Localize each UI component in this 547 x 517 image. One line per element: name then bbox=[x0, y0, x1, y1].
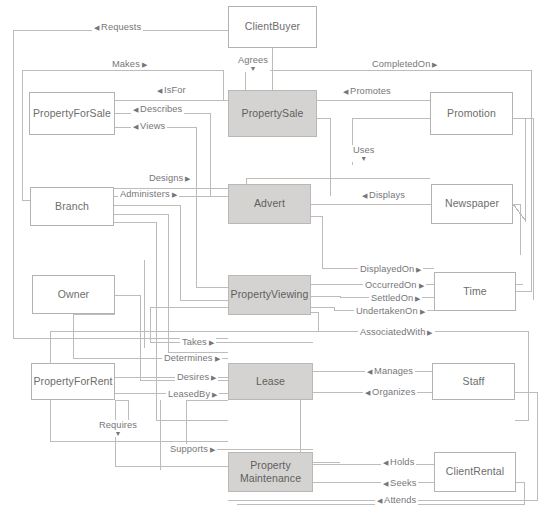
arrow-right-icon: ▶ bbox=[142, 61, 147, 68]
relationship-administers: Administers▶ bbox=[118, 189, 179, 200]
entity-lease[interactable]: Lease bbox=[228, 363, 313, 400]
arrow-left-icon: ◀ bbox=[383, 459, 388, 466]
entity-property-for-sale[interactable]: PropertyForSale bbox=[29, 92, 115, 135]
arrow-left-icon: ◀ bbox=[383, 480, 388, 487]
er-diagram-canvas: ClientBuyer PropertyForSale PropertySale… bbox=[0, 0, 547, 517]
relationship-label: Supports bbox=[170, 444, 208, 454]
relationship-promotes: ◀Promotes bbox=[341, 86, 393, 97]
arrow-down-icon: ▼ bbox=[99, 431, 137, 437]
relationship-label: Administers bbox=[120, 189, 170, 199]
arrow-left-icon: ◀ bbox=[94, 24, 99, 31]
relationship-label: Takes bbox=[182, 337, 207, 347]
relationship-associated-with: AssociatedWith▶ bbox=[358, 327, 435, 338]
entity-label: Staff bbox=[463, 375, 485, 388]
relationship-label: DisplayedOn bbox=[360, 264, 414, 274]
relationship-label: Describes bbox=[140, 104, 182, 114]
arrow-left-icon: ◀ bbox=[365, 389, 370, 396]
arrow-right-icon: ▶ bbox=[210, 446, 215, 453]
relationship-holds: ◀Holds bbox=[381, 457, 416, 468]
relationship-label: Organizes bbox=[372, 387, 415, 397]
relationship-label: UndertakenOn bbox=[356, 306, 418, 316]
arrow-right-icon: ▶ bbox=[209, 339, 214, 346]
relationship-label: Views bbox=[140, 121, 165, 131]
entity-label: PropertySale bbox=[242, 107, 304, 120]
entity-client-rental[interactable]: ClientRental bbox=[434, 452, 516, 492]
relationship-label: CompletedOn bbox=[372, 59, 430, 69]
relationship-occurred-on: OccurredOn▶ bbox=[363, 280, 426, 291]
relationship-label: Holds bbox=[390, 457, 414, 467]
entity-label: PropertyForRent bbox=[33, 375, 112, 388]
entity-client-buyer[interactable]: ClientBuyer bbox=[228, 6, 317, 48]
relationship-desires: Desires▶ bbox=[175, 372, 218, 383]
relationship-describes: ◀Describes bbox=[131, 104, 184, 115]
relationship-label: Determines bbox=[164, 353, 213, 363]
entity-newspaper[interactable]: Newspaper bbox=[431, 184, 513, 224]
relationship-label: LeasedBy bbox=[168, 389, 210, 399]
arrow-right-icon: ▶ bbox=[185, 175, 190, 182]
relationship-manages: ◀Manages bbox=[365, 366, 415, 377]
arrow-left-icon: ◀ bbox=[157, 87, 162, 94]
relationship-label: AssociatedWith bbox=[360, 327, 425, 337]
arrow-down-icon: ▼ bbox=[353, 156, 375, 162]
arrow-right-icon: ▶ bbox=[432, 61, 437, 68]
relationship-label: Promotes bbox=[350, 86, 391, 96]
entity-label: Owner bbox=[58, 288, 89, 301]
arrow-left-icon: ◀ bbox=[343, 88, 348, 95]
entity-label: ClientRental bbox=[446, 465, 504, 478]
entity-label: Property Maintenance bbox=[240, 459, 301, 485]
entity-label: Promotion bbox=[447, 107, 496, 120]
entity-label: PropertyViewing bbox=[231, 288, 309, 301]
entity-label: ClientBuyer bbox=[245, 20, 300, 33]
relationship-label: OccurredOn bbox=[365, 280, 417, 290]
relationship-is-for: ◀IsFor bbox=[155, 85, 188, 96]
relationship-settled-on: SettledOn▶ bbox=[369, 293, 422, 304]
entity-promotion[interactable]: Promotion bbox=[430, 92, 513, 135]
entity-branch[interactable]: Branch bbox=[30, 187, 114, 226]
entity-property-maintenance[interactable]: Property Maintenance bbox=[228, 452, 313, 492]
relationship-determines: Determines▶ bbox=[162, 353, 222, 364]
relationship-completed-on: CompletedOn▶ bbox=[370, 59, 440, 70]
entity-label: Lease bbox=[256, 375, 285, 388]
arrow-right-icon: ▶ bbox=[416, 266, 421, 273]
relationship-label: Designs bbox=[149, 173, 183, 183]
relationship-label: SettledOn bbox=[371, 293, 413, 303]
relationship-requests: ◀Requests bbox=[92, 22, 143, 33]
entity-advert[interactable]: Advert bbox=[228, 184, 311, 224]
relationship-label: Requires bbox=[99, 420, 137, 430]
relationship-label: Attends bbox=[384, 495, 416, 505]
entity-property-viewing[interactable]: PropertyViewing bbox=[228, 275, 311, 315]
arrow-right-icon: ▶ bbox=[212, 391, 217, 398]
arrow-down-icon: ▼ bbox=[238, 66, 268, 72]
entity-owner[interactable]: Owner bbox=[32, 275, 115, 314]
relationship-requires: Requires▼ bbox=[97, 420, 139, 437]
relationship-uses: Uses▼ bbox=[351, 145, 377, 162]
connector-lines bbox=[0, 0, 547, 517]
relationship-label: Displays bbox=[369, 190, 405, 200]
arrow-left-icon: ◀ bbox=[362, 192, 367, 199]
arrow-right-icon: ▶ bbox=[427, 329, 432, 336]
relationship-agrees: Agrees▼ bbox=[236, 55, 270, 72]
relationship-undertaken-on: UndertakenOn▶ bbox=[354, 306, 427, 317]
entity-property-sale[interactable]: PropertySale bbox=[228, 90, 317, 137]
relationship-leased-by: LeasedBy▶ bbox=[166, 389, 219, 400]
entity-label: Advert bbox=[254, 197, 285, 210]
arrow-left-icon: ◀ bbox=[133, 106, 138, 113]
relationship-organizes: ◀Organizes bbox=[363, 387, 417, 398]
arrow-left-icon: ◀ bbox=[367, 368, 372, 375]
arrow-right-icon: ▶ bbox=[215, 355, 220, 362]
arrow-right-icon: ▶ bbox=[420, 308, 425, 315]
relationship-label: Uses bbox=[353, 145, 375, 155]
relationship-views: ◀Views bbox=[131, 121, 167, 132]
entity-label: PropertyForSale bbox=[33, 107, 111, 120]
entity-label: Time bbox=[463, 285, 486, 298]
relationship-makes: Makes▶ bbox=[110, 59, 149, 70]
relationship-takes: Takes▶ bbox=[180, 337, 216, 348]
relationship-label: Desires bbox=[177, 372, 209, 382]
entity-staff[interactable]: Staff bbox=[432, 363, 515, 400]
relationship-supports: Supports▶ bbox=[168, 444, 217, 455]
relationship-label: IsFor bbox=[164, 85, 186, 95]
entity-time[interactable]: Time bbox=[434, 272, 516, 311]
arrow-left-icon: ◀ bbox=[377, 497, 382, 504]
entity-label: Branch bbox=[55, 200, 89, 213]
entity-property-for-rent[interactable]: PropertyForRent bbox=[31, 363, 115, 400]
